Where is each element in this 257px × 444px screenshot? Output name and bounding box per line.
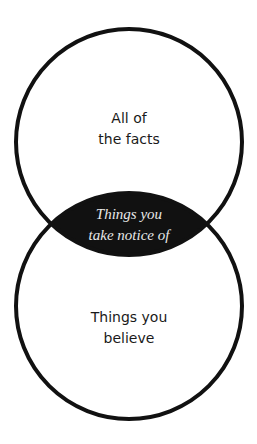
bottom-circle-label-line1: Things you [90,309,168,325]
intersection-label-line2: take notice of [89,227,172,243]
bottom-circle-label-line2: believe [104,330,155,346]
top-circle-label-line2: the facts [98,131,159,147]
intersection-label-line1: Things you [96,206,162,222]
top-circle-label-line1: All of [111,110,147,126]
venn-diagram: All of the facts Things you take notice … [0,0,257,444]
